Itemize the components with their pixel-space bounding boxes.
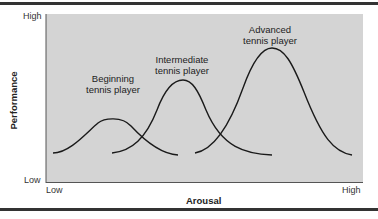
y-axis-title: Performance <box>8 71 19 129</box>
x-tick-low: Low <box>46 185 63 195</box>
y-tick-high: High <box>23 11 42 21</box>
annotation-advanced: Advanced tennis player <box>243 24 297 46</box>
x-tick-high: High <box>342 185 361 195</box>
annotation-intermediate: Intermediate tennis player <box>155 54 209 76</box>
x-axis-title: Arousal <box>186 195 221 206</box>
plot-background <box>46 14 363 182</box>
y-tick-low: Low <box>24 175 41 185</box>
annotation-beginning: Beginning tennis player <box>86 73 140 95</box>
